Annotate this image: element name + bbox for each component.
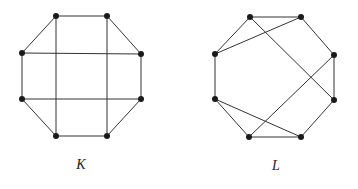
graph-vertex xyxy=(331,52,337,58)
graph-edge xyxy=(215,17,301,54)
graph-canvas xyxy=(0,0,358,189)
graph-l xyxy=(212,14,337,140)
graph-edge xyxy=(22,99,56,136)
graph-vertex xyxy=(138,96,144,102)
graph-vertex xyxy=(53,133,59,139)
graph-edge xyxy=(22,53,141,54)
graph-edge xyxy=(215,99,301,137)
graph-k xyxy=(19,13,144,139)
graph-vertex xyxy=(246,134,252,140)
graph-vertex xyxy=(298,14,304,20)
graph-vertex xyxy=(212,51,218,57)
graph-vertex xyxy=(138,51,144,57)
graph-edge xyxy=(301,17,334,55)
graph-l-label: L xyxy=(272,158,280,174)
graph-vertex xyxy=(298,134,304,140)
graph-vertex xyxy=(331,97,337,103)
graph-edge xyxy=(301,100,334,137)
graph-edge xyxy=(249,55,334,137)
graph-vertex xyxy=(19,50,25,56)
graph-vertex xyxy=(104,133,110,139)
graph-edge xyxy=(107,99,141,136)
graph-vertex xyxy=(104,13,110,19)
graph-edge xyxy=(22,16,56,53)
graph-edge xyxy=(215,99,249,137)
graph-vertex xyxy=(53,13,59,19)
graph-edge xyxy=(250,17,334,100)
graph-k-label: K xyxy=(76,157,85,173)
graph-vertex xyxy=(247,14,253,20)
graph-edge xyxy=(215,17,250,54)
graph-edge xyxy=(107,16,141,54)
graph-vertex xyxy=(212,96,218,102)
graph-vertex xyxy=(19,96,25,102)
